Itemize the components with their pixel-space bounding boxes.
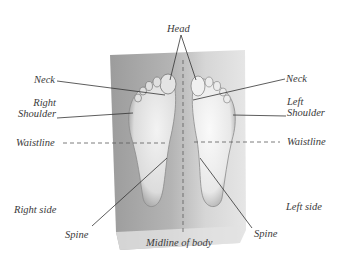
foot-reflexology-diagram: Head Neck Right Shoulder Neck Left Shoul… — [0, 0, 342, 263]
label-left-shoulder-line2: Shoulder — [287, 107, 325, 118]
label-waistline-right: Waistline — [287, 136, 326, 147]
label-left-side: Left side — [286, 201, 322, 212]
label-left-shoulder: Left Shoulder — [287, 96, 325, 118]
label-neck-right-foot: Neck — [34, 74, 55, 85]
label-right-shoulder: Right Shoulder — [18, 97, 56, 119]
label-waistline-left: Waistline — [16, 137, 55, 148]
label-neck-left-foot: Neck — [286, 73, 307, 84]
label-right-shoulder-line2: Shoulder — [18, 108, 56, 119]
label-left-shoulder-line1: Left — [287, 96, 325, 107]
diagram-artwork — [0, 0, 342, 263]
label-spine-left: Spine — [65, 229, 88, 240]
label-midline-of-body: Midline of body — [146, 237, 213, 248]
label-spine-right: Spine — [254, 228, 277, 239]
label-right-shoulder-line1: Right — [18, 97, 56, 108]
label-right-side: Right side — [14, 204, 56, 215]
label-head: Head — [167, 23, 190, 34]
